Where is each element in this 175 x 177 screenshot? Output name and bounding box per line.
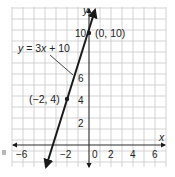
x-axis-label: x (158, 131, 165, 143)
coordinate-plane: y x −6 −2 0 2 4 6 2 4 6 10 (−2, 4) (0, 1… (0, 0, 175, 177)
x-tick-2: 2 (108, 149, 114, 160)
point-label-0-10: (0, 10) (95, 27, 125, 39)
margin-mark (2, 150, 6, 155)
x-tick-neg2: −2 (60, 149, 72, 160)
equation-leader-line (50, 55, 73, 75)
equation-tail: + 10 (46, 42, 70, 54)
equation-label: y = 3x + 10 (17, 42, 70, 54)
y-tick-6: 6 (78, 73, 84, 84)
y-tick-4: 4 (78, 95, 84, 106)
point-label-neg2-4: (−2, 4) (29, 93, 60, 105)
y-axis-label: y (82, 4, 89, 16)
point-0-10 (87, 31, 91, 35)
x-tick-neg6: −6 (16, 149, 28, 160)
x-tick-0: 0 (92, 149, 98, 160)
x-tick-6: 6 (152, 149, 158, 160)
point-neg2-4 (65, 97, 69, 101)
y-tick-10: 10 (75, 28, 87, 39)
x-tick-4: 4 (130, 149, 136, 160)
y-tick-2: 2 (78, 118, 84, 129)
equation-mid: = 3 (23, 42, 41, 54)
